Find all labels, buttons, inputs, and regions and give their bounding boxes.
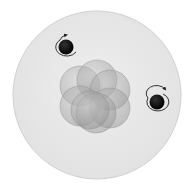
nucleon-7 [71, 91, 109, 129]
atom-diagram [0, 0, 195, 189]
